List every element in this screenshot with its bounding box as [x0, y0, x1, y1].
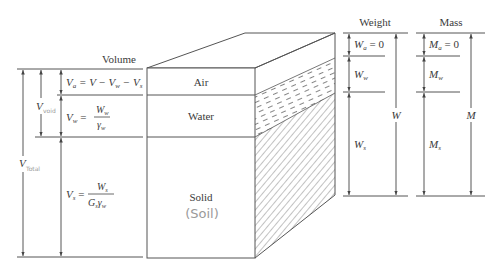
volume-title: Volume	[102, 53, 136, 65]
phase-air-label: Air	[194, 76, 209, 88]
svg-text:Total: Total	[25, 165, 40, 172]
svg-text:Ww: Ww	[96, 104, 109, 116]
svg-text:Va = V − Vw − Vs: Va = V − Vw − Vs	[66, 76, 143, 90]
mass-title: Mass	[439, 16, 462, 28]
soil-block: Air Water Solid (Soil)	[147, 33, 335, 258]
svg-text:Ws: Ws	[97, 181, 108, 193]
label-Ma: Ma = 0	[428, 38, 459, 52]
label-Ww: Ww	[354, 68, 368, 82]
label-Vs: Vs = Ws Gsγw	[66, 181, 114, 209]
weight-arrows	[349, 34, 396, 195]
label-Vw: Vw = Ww γw	[66, 104, 110, 131]
label-Ms: Ms	[428, 138, 441, 152]
label-Mw: Mw	[428, 68, 443, 82]
weight-title: Weight	[359, 16, 391, 28]
svg-text:Gsγw: Gsγw	[88, 197, 107, 209]
mass-arrows	[424, 34, 471, 195]
phase-water-label: Water	[188, 110, 214, 122]
svg-text:γw: γw	[97, 119, 106, 131]
svg-text:void: void	[43, 107, 56, 114]
label-W: W	[391, 109, 401, 121]
label-M: M	[465, 109, 476, 121]
label-Wa: Wa = 0	[354, 38, 384, 52]
svg-text:Vw =: Vw =	[66, 111, 86, 125]
label-Ws: Ws	[354, 138, 366, 152]
label-V-void: V void	[34, 98, 58, 114]
phase-solid-label: Solid	[189, 191, 213, 203]
svg-text:Vs =: Vs =	[66, 188, 84, 202]
phase-diagram: Volume Weight Mass Va = V − Vw − Vs Vw =…	[0, 0, 504, 275]
handwritten-soil-note: (Soil)	[185, 206, 219, 221]
label-Va: Va = V − Vw − Vs	[66, 76, 143, 90]
label-V-total: V Total	[16, 156, 40, 172]
